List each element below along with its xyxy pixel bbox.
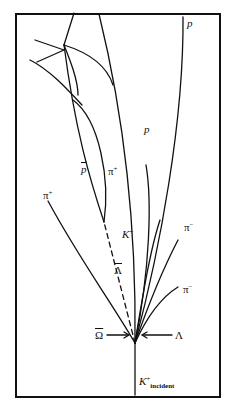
label-pbar-text: p — [81, 163, 87, 175]
label-omega-bar: Ω — [95, 330, 103, 341]
lambda-bar-text: Λ — [114, 264, 122, 276]
label-k-incident: K+incident — [139, 376, 174, 390]
label-p-mid: p — [144, 124, 150, 135]
label-pi-plus-upper: π+ — [108, 166, 118, 177]
bubble-chamber-diagram: p p p π+ π+ K+ π− π− Λ Ω Λ K+incident — [0, 0, 230, 410]
label-pi-minus-upper: π− — [184, 222, 194, 233]
particle-tracks — [0, 0, 230, 410]
track-p-top — [135, 17, 183, 343]
label-p-top: p — [187, 18, 193, 29]
label-lambda: Λ — [175, 330, 183, 341]
charge-sup: + — [49, 189, 53, 197]
incident-sub: incident — [150, 382, 174, 390]
label-pbar: p — [81, 164, 87, 175]
charge-sup: + — [114, 165, 118, 173]
track-star-4 — [37, 50, 64, 62]
track-pbar — [64, 45, 104, 222]
charge-sup: + — [129, 228, 133, 236]
track-pi-plus-upper — [73, 100, 106, 222]
charge-sup: − — [189, 283, 193, 291]
track-lambda-bar — [104, 222, 135, 343]
track-star-3 — [35, 40, 64, 50]
track-star-5 — [30, 60, 82, 105]
track-star-1 — [64, 13, 74, 45]
label-k-plus: K+ — [122, 229, 133, 240]
label-pi-minus-lower: π− — [183, 284, 193, 295]
label-lambda-bar: Λ — [114, 265, 122, 276]
label-pi-plus-left: π+ — [43, 190, 53, 201]
omega-bar-text: Ω — [95, 329, 103, 341]
charge-sup: − — [190, 221, 194, 229]
